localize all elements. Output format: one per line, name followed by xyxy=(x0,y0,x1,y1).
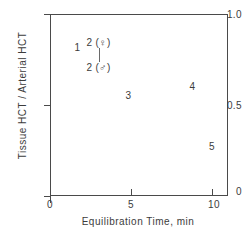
data-point-label: 3 xyxy=(126,90,132,101)
data-point-label: 2 (♂) xyxy=(87,61,111,72)
data-point-label: 1 xyxy=(75,41,81,52)
series-connector-line xyxy=(99,48,100,62)
y-axis-tick-2 xyxy=(44,105,51,106)
y-axis-tick-label-1: 1.0 xyxy=(200,9,242,20)
x-axis-tick-label-2: 5 xyxy=(116,199,146,210)
y-axis-title: Tissue HCT / Arterial HCT xyxy=(17,1,28,191)
x-axis-tick-3 xyxy=(212,189,213,196)
x-axis-tick-label-1: 0 xyxy=(35,199,65,210)
data-point-label: 2 (♀) xyxy=(87,36,111,47)
scatter-chart-figure: 1.0 0.5 0 0 5 10 Equilibration Time, min… xyxy=(0,0,242,242)
data-point-label: 4 xyxy=(189,80,195,91)
x-axis-tick-label-3: 10 xyxy=(199,199,229,210)
data-point-label: 5 xyxy=(209,140,215,151)
x-axis-title: Equilibration Time, min xyxy=(40,216,236,227)
y-axis-tick-label-2: 0.5 xyxy=(200,100,242,111)
y-axis-tick-1 xyxy=(44,14,51,15)
y-axis-tick-label-3: 0 xyxy=(200,186,242,197)
x-axis-tick-2 xyxy=(131,189,132,196)
